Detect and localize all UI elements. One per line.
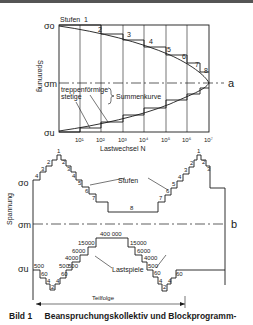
b-step-2-rise: 2 (190, 160, 194, 166)
legend-summenkurve-label: Summenkurve (116, 93, 161, 100)
pointer-stufen-right (148, 178, 168, 190)
lastspiele-left-4000: 4000 (65, 255, 79, 261)
step-5: 5 (167, 46, 171, 53)
step-1: 1 (84, 16, 88, 23)
smooth-curve-upper (59, 26, 209, 83)
panel-b-sigma-u: σu (18, 264, 29, 274)
b-step-3-rise: 3 (184, 167, 188, 173)
teilfolge-arrowhead-left (36, 302, 41, 306)
lastspiele-label: Lastspiele (112, 266, 144, 274)
pointer-smooth (90, 95, 108, 122)
lower-60-left-rise: 60 (61, 271, 68, 277)
pointer-lastspiele-left (95, 256, 112, 268)
panel-a-sigma-u: σu (44, 128, 55, 138)
b-step-3-left: 3 (41, 166, 45, 172)
panel-b-sigma-o: σo (18, 178, 29, 188)
teilfolge-label: Teilfolge (92, 295, 115, 301)
panel-a: σo σm σu Spannung Stufen 1 2 3 4 5 6 7 8… (36, 16, 235, 152)
step-4: 4 (149, 38, 153, 45)
panel-a-x-ticks: 10¹ 10² 10³ 10⁴ 10⁵ 10⁶ 10⁷ (75, 137, 213, 143)
panel-a-sigma-o: σo (44, 21, 55, 31)
b-step-7-rise: 7 (159, 195, 163, 201)
x-tick-4: 10⁴ (139, 137, 149, 143)
lastspiele-right-15000: 15000 (130, 240, 147, 246)
panel-b-stufen-label: Stufen (118, 177, 138, 184)
caption-text: Beanspruchungskollektiv und Blockprogram… (45, 311, 237, 321)
lastspiele-right-4000: 4000 (144, 255, 158, 261)
lastspiele-right-60: 60 (154, 270, 161, 276)
b-step-1-rise: 1 (197, 148, 201, 154)
lower-500-left-rise: 500 (68, 263, 79, 269)
panel-b-ylabel: Spannung (6, 193, 14, 225)
lower-4-left-rise: 4 (56, 278, 60, 284)
step-3: 3 (127, 31, 131, 38)
x-tick-2: 10² (96, 137, 105, 143)
panel-b: Teilfolge σo σm σu Spannung 4 3 2 1 2 3 … (6, 148, 237, 308)
b-step-4-rise: 4 (178, 174, 182, 180)
brace (108, 88, 114, 104)
stair-curve-upper (59, 25, 209, 72)
b-step-4-desc: 4 (72, 173, 76, 179)
step-2: 2 (98, 26, 102, 33)
x-tick-1: 10¹ (75, 137, 84, 143)
b-step-5-rise: 5 (172, 181, 176, 187)
lower-2-left: 2 (51, 284, 55, 290)
step-7: 7 (195, 61, 199, 68)
caption-number: Bild 1 (9, 311, 32, 321)
b-step-8: 8 (130, 205, 134, 211)
panel-a-label: a (228, 77, 235, 89)
b-step-6-rise: 6 (166, 188, 170, 194)
panel-b-sigma-m: σm (18, 220, 31, 230)
pointer-stair (76, 102, 90, 128)
lower-500-left: 500 (34, 263, 45, 269)
x-tick-6: 10⁶ (182, 137, 192, 143)
b-step-1-left: 1 (57, 148, 61, 154)
lastspiele-top: 400 000 (100, 231, 122, 237)
step-8: 8 (204, 67, 208, 74)
teilfolge-arrowhead-right (180, 302, 185, 306)
panel-b-label: b (231, 218, 237, 230)
panel-a-xlabel: Lastwechsel N (100, 145, 146, 152)
b-step-5-desc: 5 (78, 180, 82, 186)
lastspiele-right-6000: 6000 (137, 248, 151, 254)
x-tick-5: 10⁵ (161, 137, 171, 143)
lower-60-right-rise: 60 (176, 271, 183, 277)
legend-smooth-label: stetige (61, 93, 82, 101)
panel-a-ylabel: Spannung (36, 60, 44, 92)
b-step-6-desc: 6 (85, 188, 89, 194)
lower-60-left: 60 (41, 271, 48, 277)
step-6: 6 (182, 53, 186, 60)
figure-caption: Bild 1 Beanspruchungskollektiv und Block… (9, 311, 236, 321)
lastspiele-left-6000: 6000 (72, 248, 86, 254)
lastspiele-left-15000: 15000 (78, 240, 95, 246)
b-step-4-left: 4 (35, 173, 39, 179)
b-step-3-desc: 3 (67, 166, 71, 172)
panel-a-stufen-label: Stufen (60, 16, 80, 23)
b-step-7-desc: 7 (92, 195, 96, 201)
x-tick-3: 10³ (118, 137, 127, 143)
panel-a-sigma-m: σm (44, 79, 57, 89)
x-tick-7: 10⁷ (204, 137, 213, 143)
lastspiele-right-500: 500 (148, 263, 159, 269)
b-step-2-left: 2 (47, 159, 51, 165)
lower-2-right: 2 (163, 284, 167, 290)
figure-canvas: σo σm σu Spannung Stufen 1 2 3 4 5 6 7 8… (0, 0, 253, 325)
